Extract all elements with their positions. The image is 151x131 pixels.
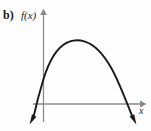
x-axis-label: x — [139, 105, 143, 117]
y-axis-label: f(x) — [21, 9, 36, 22]
figure-container: b) f(x) x — [0, 0, 151, 131]
curve-left-arrowhead-icon — [30, 114, 37, 124]
curve-right-arrowhead-icon — [130, 114, 137, 124]
part-label: b) — [3, 8, 14, 22]
parabola-curve — [34, 40, 133, 117]
y-axis-arrowhead-icon — [40, 9, 47, 16]
